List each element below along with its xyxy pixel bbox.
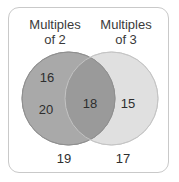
value-right-only: 15 xyxy=(117,97,139,110)
value-intersection: 18 xyxy=(79,97,101,110)
value-left-only-upper: 16 xyxy=(36,71,58,84)
venn-diagram-figure: Multiples of 2 Multiples of 3 16 20 18 1… xyxy=(0,0,179,182)
set-label-right: Multiples of 3 xyxy=(90,17,162,47)
set-label-right-line1: Multiples xyxy=(100,17,151,32)
set-label-left: Multiples of 2 xyxy=(19,17,91,47)
set-label-left-line1: Multiples xyxy=(29,17,80,32)
value-outside-right: 17 xyxy=(112,152,134,165)
set-label-left-line2: of 2 xyxy=(19,32,91,47)
value-left-only-lower: 20 xyxy=(34,103,58,116)
value-outside-left: 19 xyxy=(53,152,75,165)
set-label-right-line2: of 3 xyxy=(90,32,162,47)
